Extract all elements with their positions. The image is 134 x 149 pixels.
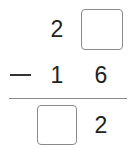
difference-ones-digit: 2: [91, 112, 111, 138]
subtrahend-tens-digit: 1: [47, 62, 67, 88]
minuend-tens-digit: 2: [47, 16, 67, 42]
minus-sign-icon: [10, 74, 31, 76]
difference-tens-input-box[interactable]: [37, 105, 77, 145]
answer-divider-line: [9, 98, 127, 99]
subtrahend-ones-digit: 6: [91, 62, 111, 88]
minuend-ones-input-box[interactable]: [81, 9, 123, 50]
